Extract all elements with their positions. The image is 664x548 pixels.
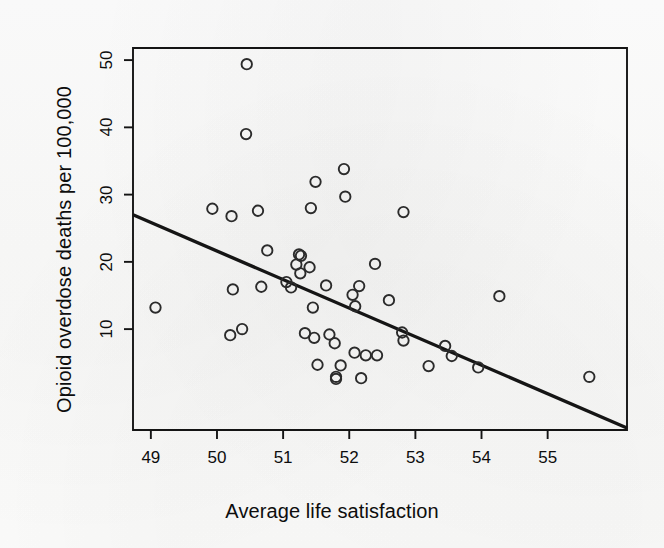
x-tick-label: 51 [274,448,293,468]
scatter-point [354,281,364,291]
scatter-point [330,338,340,348]
y-tick-label: 20 [97,252,117,271]
scatter-point [241,129,251,139]
plot-frame [133,48,627,430]
x-tick-label: 52 [340,448,359,468]
y-axis-title: Opioid overdose deaths per 100,000 [53,60,76,440]
scatter-point [150,302,160,312]
x-axis-title: Average life satisfaction [0,500,664,523]
plot-canvas [0,0,664,548]
scatter-point [361,350,371,360]
x-tick-label: 54 [472,448,491,468]
data-points [150,59,594,384]
scatter-point [309,333,319,343]
x-tick-label: 53 [406,448,425,468]
y-tick-label: 40 [97,118,117,137]
y-tick-label: 30 [97,185,117,204]
scatter-point [335,360,345,370]
scatter-point [398,207,408,217]
scatter-point [321,280,331,290]
scatter-point [225,330,235,340]
scatter-point [494,291,504,301]
scatter-point [304,262,314,272]
scatter-point [370,259,380,269]
scatter-point [242,59,252,69]
regression-line [133,215,627,428]
scatter-point [349,347,359,357]
x-tick-label: 55 [538,448,557,468]
scatter-point [256,282,266,292]
scatter-point [584,372,594,382]
scatter-point [237,324,247,334]
y-tick-label: 50 [97,51,117,70]
x-tick-label: 50 [208,448,227,468]
scatter-point [253,206,263,216]
scatter-point [228,284,238,294]
scatter-point [306,203,316,213]
scatter-plot-figure: Opioid overdose deaths per 100,000 Avera… [0,0,664,548]
scatter-point [384,295,394,305]
scatter-point [312,360,322,370]
scatter-point [207,204,217,214]
scatter-point [356,373,366,383]
scatter-point [372,350,382,360]
scatter-point [310,177,320,187]
x-tick-label: 49 [141,448,160,468]
scatter-point [423,361,433,371]
y-tick-label: 10 [97,320,117,339]
scatter-point [339,164,349,174]
scatter-point [262,245,272,255]
scatter-point [308,302,318,312]
scatter-point [226,211,236,221]
scatter-point [340,191,350,201]
